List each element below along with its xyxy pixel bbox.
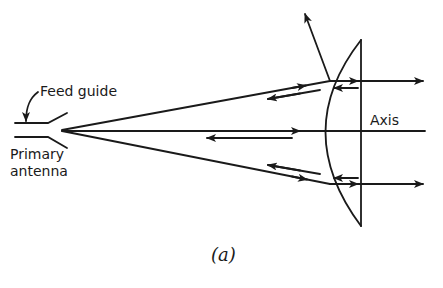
lens-curved-surface [326, 40, 362, 226]
primary-antenna-label-line2: antenna [10, 163, 68, 179]
ray-bottom [62, 131, 330, 184]
feed-guide-pointer [26, 92, 38, 121]
axis-label: Axis [370, 112, 399, 128]
deflected-ray [305, 14, 330, 81]
primary-antenna-label-line1: Primary [10, 146, 64, 162]
figure-caption: (a) [211, 244, 236, 265]
feed-horn [15, 113, 67, 148]
feed-guide-label: Feed guide [40, 83, 117, 99]
